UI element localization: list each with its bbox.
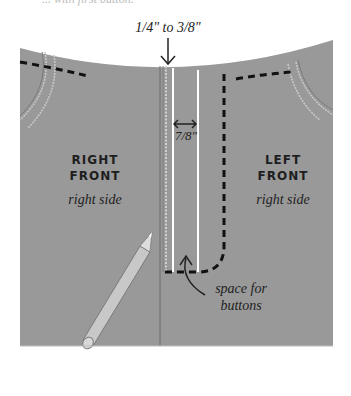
right-front-subtitle: right side <box>50 192 140 208</box>
space-for-buttons-line2: buttons <box>196 297 286 314</box>
right-front-label: RIGHT FRONT right side <box>50 152 140 208</box>
placket-width-label: 7/8" <box>166 128 206 144</box>
left-front-label: LEFT FRONT right side <box>238 152 328 208</box>
seam-allowance-label: 1/4" to 3/8" <box>118 20 218 36</box>
left-front-subtitle: right side <box>238 192 328 208</box>
space-for-buttons-line1: space for <box>196 280 286 297</box>
right-front-title-line1: RIGHT <box>50 152 140 168</box>
left-front-title-line1: LEFT <box>238 152 328 168</box>
left-front-title-line2: FRONT <box>238 168 328 184</box>
right-front-title-line2: FRONT <box>50 168 140 184</box>
space-for-buttons-label: space for buttons <box>196 280 286 314</box>
